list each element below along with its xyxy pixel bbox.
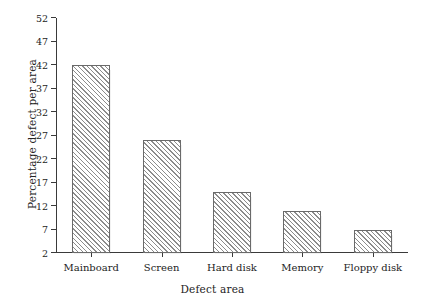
y-tick-mark [51, 135, 56, 136]
y-tick-mark [51, 64, 56, 65]
x-tick-label: Screen [144, 262, 180, 273]
y-axis-line [56, 18, 57, 253]
y-tick-label: 7 [26, 225, 48, 235]
y-tick-mark [51, 205, 56, 206]
x-tick-mark [232, 253, 233, 257]
x-tick-label: Floppy disk [344, 262, 403, 273]
y-tick-label: 22 [26, 155, 48, 165]
y-tick-label: 52 [26, 14, 48, 24]
y-tick-label: 27 [26, 131, 48, 141]
y-tick-label: 42 [26, 61, 48, 71]
bar-memory [283, 211, 321, 253]
x-tick-mark [373, 253, 374, 257]
x-tick-mark [91, 253, 92, 257]
x-tick-label: Hard disk [207, 262, 257, 273]
plot-area: 27121722273237424752 MainboardScreenHard… [56, 18, 408, 253]
x-tick-label: Memory [281, 262, 323, 273]
y-tick-label: 2 [26, 249, 48, 259]
bar-mainboard [72, 65, 110, 253]
bar-hard-disk [213, 192, 251, 253]
x-tick-mark [162, 253, 163, 257]
y-tick-label: 17 [26, 178, 48, 188]
y-tick-label: 37 [26, 84, 48, 94]
y-tick-mark [51, 229, 56, 230]
x-tick-mark [302, 253, 303, 257]
y-tick-mark [51, 88, 56, 89]
y-tick-mark [51, 111, 56, 112]
y-tick-mark [51, 252, 56, 253]
y-tick-label: 47 [26, 37, 48, 47]
x-tick-label: Mainboard [63, 262, 118, 273]
x-axis-title: Defect area [0, 283, 425, 295]
bar-chart: Percentage defect per area 2712172227323… [0, 0, 425, 308]
y-tick-mark [51, 17, 56, 18]
bar-floppy-disk [354, 230, 392, 254]
y-tick-mark [51, 182, 56, 183]
y-tick-mark [51, 41, 56, 42]
bar-screen [143, 140, 181, 253]
y-tick-label: 12 [26, 202, 48, 212]
y-tick-label: 32 [26, 108, 48, 118]
y-tick-mark [51, 158, 56, 159]
